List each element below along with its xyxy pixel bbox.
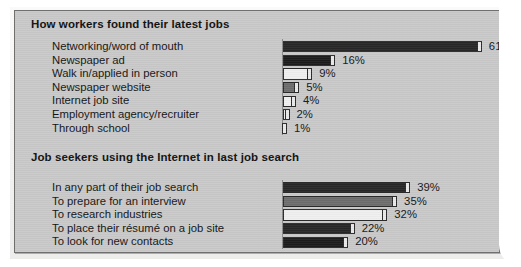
bar-row: Through school1%: [15, 122, 499, 136]
bar-category-label: In any part of their job search: [52, 181, 198, 195]
bar: [283, 82, 299, 93]
bar-category-label: To place their résumé on a job site: [52, 222, 224, 236]
bar-end-cap: [307, 68, 312, 79]
bar-end-cap: [405, 182, 410, 193]
bar-end-cap: [350, 223, 355, 234]
bar-value-label: 9%: [319, 67, 335, 81]
bar-end-cap: [291, 96, 296, 107]
bar-row: To look for new contacts20%: [15, 235, 499, 249]
bar-value-label: 35%: [404, 195, 427, 209]
bar-end-cap: [343, 237, 348, 248]
scanned-page: How workers found their latest jobs Netw…: [0, 0, 521, 267]
bar-category-label: Newspaper website: [52, 81, 151, 95]
bar-end-cap: [392, 196, 397, 207]
bar-track: [283, 82, 299, 93]
bar-end-cap: [282, 123, 287, 134]
bar: [283, 123, 287, 134]
bar-category-label: To prepare for an interview: [52, 195, 186, 209]
bar-category-label: To research industries: [52, 208, 163, 222]
bar-track: [283, 237, 348, 248]
bar: [283, 237, 348, 248]
bar-row: To prepare for an interview35%: [15, 195, 499, 209]
bar: [283, 41, 482, 52]
page-right-gutter: [499, 0, 521, 267]
page-top-edge: [0, 0, 521, 7]
bar-row: Networking/word of mouth61%: [15, 40, 499, 54]
bar-category-label: Walk in/applied in person: [52, 67, 178, 81]
bar: [283, 109, 290, 120]
bar: [283, 55, 335, 66]
bar-end-cap: [330, 55, 335, 66]
bar-track: [283, 68, 312, 79]
bar-category-label: Internet job site: [52, 94, 129, 108]
bar-row: Newspaper ad16%: [15, 54, 499, 68]
bar: [283, 68, 312, 79]
bar-category-label: To look for new contacts: [52, 235, 173, 249]
bar-category-label: Employment agency/recruiter: [52, 108, 199, 122]
bar: [283, 223, 355, 234]
bar-value-label: 22%: [362, 222, 385, 236]
bar-value-label: 39%: [417, 181, 440, 195]
bar-category-label: Networking/word of mouth: [52, 40, 183, 54]
bar-row: Employment agency/recruiter2%: [15, 108, 499, 122]
bar-row: Newspaper website5%: [15, 81, 499, 95]
bar-value-label: 5%: [306, 81, 322, 95]
bar-track: [283, 109, 290, 120]
bar-track: [283, 55, 335, 66]
bar-end-cap: [477, 41, 482, 52]
bar-end-cap: [294, 82, 299, 93]
bar-value-label: 16%: [342, 54, 365, 68]
bar-row: To research industries32%: [15, 208, 499, 222]
bar-row: To place their résumé on a job site22%: [15, 222, 499, 236]
bar-track: [283, 223, 355, 234]
bar-track: [283, 41, 482, 52]
section-title: How workers found their latest jobs: [31, 18, 229, 30]
chart-panel: How workers found their latest jobs Netw…: [14, 10, 500, 253]
bar: [283, 196, 397, 207]
bar-row: Walk in/applied in person9%: [15, 67, 499, 81]
bar-track: [283, 96, 296, 107]
bar-end-cap: [382, 209, 387, 220]
bar-track: [283, 182, 410, 193]
bar-end-cap: [285, 109, 290, 120]
bar: [283, 209, 387, 220]
page-bottom-edge: [0, 259, 521, 267]
bar: [283, 96, 296, 107]
bar-value-label: 2%: [297, 108, 313, 122]
bar-row: In any part of their job search39%: [15, 181, 499, 195]
bar-track: [283, 209, 387, 220]
bar-value-label: 32%: [394, 208, 417, 222]
section-title: Job seekers using the Internet in last j…: [31, 151, 299, 163]
bar-track: [283, 123, 287, 134]
bar-value-label: 4%: [303, 94, 319, 108]
bar-category-label: Newspaper ad: [52, 54, 125, 68]
bar-value-label: 1%: [294, 122, 310, 136]
bar: [283, 182, 410, 193]
bar-category-label: Through school: [52, 122, 130, 136]
bar-value-label: 20%: [355, 235, 378, 249]
bar-row: Internet job site4%: [15, 94, 499, 108]
page-left-gutter: [0, 0, 10, 267]
bar-track: [283, 196, 397, 207]
